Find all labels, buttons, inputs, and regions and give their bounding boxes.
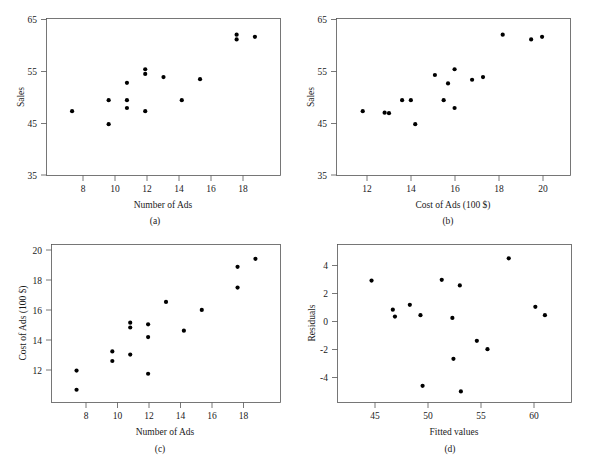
data-point	[400, 98, 404, 102]
data-point	[458, 283, 462, 287]
data-point	[440, 278, 444, 282]
panel-c-ytick-18: 18	[33, 276, 43, 286]
data-point	[198, 77, 202, 81]
data-point	[533, 305, 537, 309]
panel-c-ytick-16: 16	[33, 306, 43, 316]
data-point	[182, 329, 186, 333]
data-point	[529, 37, 533, 41]
panel-b-points	[361, 33, 545, 127]
panel-d-ytick-neg4: -4	[320, 373, 328, 383]
panel-a-ytick-65: 65	[28, 15, 38, 25]
panel-d-points	[369, 256, 547, 393]
data-point	[470, 78, 474, 82]
panel-c-ylabel: Cost of Ads (100 $)	[18, 286, 29, 361]
panel-b-xtick-16: 16	[450, 184, 460, 194]
panel-d-ytick-2: 2	[323, 289, 328, 299]
panel-a-points	[70, 33, 257, 127]
panel-c-ytick-14: 14	[33, 336, 43, 346]
panel-a-ytick-55: 55	[28, 67, 38, 77]
panel-d-ytick-4: 4	[323, 261, 328, 271]
panel-d-frame	[338, 245, 572, 403]
panel-d-xtick-45: 45	[370, 411, 380, 421]
panel-c-xtick-12: 12	[144, 411, 154, 421]
panel-b-xtick-20: 20	[538, 184, 548, 194]
panel-c-caption: (c)	[155, 444, 166, 455]
data-point	[143, 72, 147, 76]
data-point	[369, 278, 373, 282]
panel-a-xtick-12: 12	[142, 184, 152, 194]
data-point	[70, 109, 74, 113]
data-point	[74, 388, 78, 392]
panel-c-xtick-16: 16	[207, 411, 217, 421]
panel-a-svg: 65 55 45 35 8 10 12 14 16 18 Sales Numbe…	[0, 0, 300, 230]
panel-c-ytick-20: 20	[33, 246, 43, 256]
data-point	[146, 335, 150, 339]
data-point	[452, 67, 456, 71]
data-point	[253, 35, 257, 39]
data-point	[107, 122, 111, 126]
panel-b-caption: (b)	[442, 216, 453, 227]
panel-b-ytick-65: 65	[318, 15, 328, 25]
panel-a-ytick-35: 35	[28, 171, 38, 181]
data-point	[451, 357, 455, 361]
panel-a-ylabel: Sales	[16, 87, 26, 107]
panel-b-frame	[337, 19, 571, 176]
data-point	[200, 308, 204, 312]
data-point	[442, 98, 446, 102]
data-point	[107, 98, 111, 102]
panel-a-frame	[47, 19, 281, 176]
panel-c-x-ticks	[86, 403, 244, 409]
panel-c: 20 18 16 14 12 8 10 12 14 16 18 Cost of …	[0, 230, 300, 465]
data-point	[459, 389, 463, 393]
panel-d-svg: 4 2 0 -2 -4 45 50 55 60 Residuals Fitted…	[295, 230, 591, 465]
panel-c-points	[74, 257, 257, 392]
data-point	[143, 109, 147, 113]
data-point	[475, 339, 479, 343]
panel-d-xtick-60: 60	[529, 411, 539, 421]
data-point	[450, 316, 454, 320]
panel-c-xtick-8: 8	[84, 411, 89, 421]
data-point	[507, 256, 511, 260]
panel-b-x-ticks	[367, 176, 543, 182]
data-point	[393, 314, 397, 318]
data-point	[543, 313, 547, 317]
data-point	[235, 33, 239, 37]
panel-d-xtick-55: 55	[476, 411, 486, 421]
panel-b: 65 55 45 35 12 14 16 18 20 Sales Cost of…	[295, 0, 591, 230]
panel-d-caption: (d)	[444, 444, 455, 455]
panel-b-svg: 65 55 45 35 12 14 16 18 20 Sales Cost of…	[295, 0, 591, 230]
panel-a-xtick-16: 16	[206, 184, 216, 194]
panel-a-y-ticks	[41, 20, 47, 176]
data-point	[361, 109, 365, 113]
panel-b-xtick-12: 12	[362, 184, 372, 194]
panel-c-frame	[52, 245, 281, 403]
panel-d-ytick-neg2: -2	[320, 345, 328, 355]
data-point	[501, 33, 505, 37]
panel-a-xtick-18: 18	[238, 184, 248, 194]
data-point	[446, 81, 450, 85]
scatterplot-figure: 65 55 45 35 8 10 12 14 16 18 Sales Numbe…	[0, 0, 591, 465]
data-point	[540, 35, 544, 39]
data-point	[391, 308, 395, 312]
panel-b-ytick-45: 45	[318, 119, 328, 129]
data-point	[74, 368, 78, 372]
data-point	[235, 37, 239, 41]
data-point	[128, 353, 132, 357]
panel-d-xlabel: Fitted values	[430, 427, 479, 437]
panel-b-xtick-18: 18	[494, 184, 504, 194]
panel-b-ytick-35: 35	[318, 171, 328, 181]
data-point	[110, 349, 114, 353]
panel-b-xtick-14: 14	[406, 184, 416, 194]
panel-d: 4 2 0 -2 -4 45 50 55 60 Residuals Fitted…	[295, 230, 591, 465]
panel-b-ylabel: Sales	[306, 87, 316, 107]
panel-c-ytick-12: 12	[33, 366, 43, 376]
data-point	[110, 359, 114, 363]
panel-a-xtick-14: 14	[174, 184, 184, 194]
data-point	[143, 67, 147, 71]
data-point	[125, 81, 129, 85]
data-point	[383, 111, 387, 115]
data-point	[253, 257, 257, 261]
data-point	[409, 98, 413, 102]
panel-b-y-ticks	[331, 20, 337, 176]
data-point	[128, 325, 132, 329]
